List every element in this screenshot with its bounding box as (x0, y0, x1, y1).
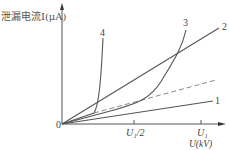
x-axis-arrow-icon (218, 122, 226, 126)
curve-2 (62, 28, 219, 124)
curve-1 (62, 101, 213, 124)
dashed-reference (94, 80, 216, 113)
x-axis-label: U(kV) (189, 139, 212, 149)
leakage-current-chart: 泄漏电流I(μA) 0 U₁/2 U₁ U(kV) 1 2 3 4 (0, 0, 229, 150)
curve-3-label: 3 (183, 18, 188, 28)
curve-1-label: 1 (215, 96, 220, 106)
tick-full-label: U₁ (197, 128, 208, 138)
curve-2-label: 2 (222, 22, 227, 32)
origin-label: 0 (56, 120, 61, 130)
curve-4-label: 4 (100, 28, 105, 38)
tick-half-label: U₁/2 (126, 128, 144, 138)
y-axis-label: 泄漏电流I(μA) (1, 8, 66, 23)
curve-3 (62, 30, 186, 124)
